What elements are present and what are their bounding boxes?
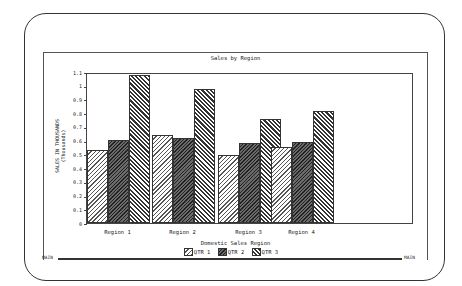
chart-title: Sales by Region — [43, 55, 428, 61]
y-tick-label: 0 — [64, 222, 82, 227]
legend-swatch-qtr2 — [218, 248, 227, 256]
y-tick-label: 0.9 — [64, 98, 82, 103]
y-tick-label: 0.6 — [64, 139, 82, 144]
bar-region-4-qtr2 — [292, 142, 313, 223]
plot-area — [86, 73, 413, 224]
bar-region-1-qtr2 — [108, 140, 129, 223]
bar-region-2-qtr2 — [173, 138, 194, 223]
bar-region-1-qtr1 — [87, 150, 108, 223]
bar-region-3-qtr2 — [239, 143, 260, 223]
y-tick-label: 0.1 — [64, 208, 82, 213]
status-label-right: MAIN — [404, 255, 415, 260]
y-tick-label: 1 — [64, 84, 82, 89]
x-tick-label: Region 4 — [272, 229, 332, 235]
bar-region-4-qtr3 — [313, 111, 334, 223]
bar-region-3-qtr1 — [218, 155, 239, 223]
legend: QTR 1 QTR 2 QTR 3 — [0, 248, 462, 256]
y-tick-label: 0.4 — [64, 167, 82, 172]
x-tick-label: Region 2 — [153, 229, 213, 235]
legend-item-qtr2: QTR 2 — [218, 249, 245, 255]
bar-region-2-qtr1 — [152, 135, 173, 223]
y-tick-label: 1.1 — [64, 71, 82, 76]
y-tick-label: 0.8 — [64, 112, 82, 117]
x-tick-label: Region 1 — [88, 229, 148, 235]
status-line — [58, 258, 402, 260]
bar-region-4-qtr1 — [271, 147, 292, 223]
legend-item-qtr3: QTR 3 — [252, 249, 279, 255]
status-label-left: MAIN — [42, 255, 53, 260]
bar-region-2-qtr3 — [194, 89, 215, 223]
y-tick-label: 0.7 — [64, 125, 82, 130]
x-tick-label: Region 3 — [219, 229, 279, 235]
legend-item-qtr1: QTR 1 — [184, 249, 211, 255]
legend-swatch-qtr1 — [184, 248, 193, 256]
y-tick-mark — [84, 224, 87, 225]
legend-swatch-qtr3 — [252, 248, 261, 256]
bar-region-1-qtr3 — [129, 75, 150, 223]
y-tick-label: 0.2 — [64, 194, 82, 199]
y-tick-label: 0.5 — [64, 153, 82, 158]
y-tick-label: 0.3 — [64, 180, 82, 185]
x-axis-title: Domestic Sales Region — [43, 240, 428, 246]
